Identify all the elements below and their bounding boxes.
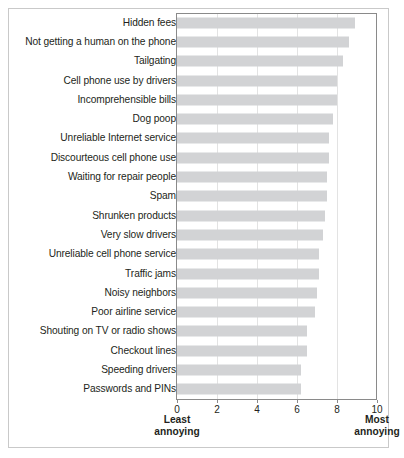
x-tick-mark bbox=[377, 400, 378, 403]
bar-category-label: Unreliable Internet service bbox=[60, 133, 176, 143]
bar-category-label: Traffic jams bbox=[125, 268, 176, 278]
chart-card: Hidden feesNot getting a human on the ph… bbox=[8, 8, 389, 448]
bar-category-label: Shouting on TV or radio shows bbox=[40, 326, 176, 336]
bar-row: Dog poop bbox=[9, 109, 390, 128]
axis-caption-least-line1: Least bbox=[137, 414, 217, 426]
bar-row: Discourteous cell phone use bbox=[9, 148, 390, 167]
bar-category-label: Poor airline service bbox=[91, 307, 176, 317]
bar bbox=[177, 268, 319, 279]
bar-category-label: Shrunken products bbox=[92, 211, 176, 221]
bar-category-label: Spam bbox=[150, 191, 176, 201]
bar bbox=[177, 56, 343, 67]
bar-row: Very slow drivers bbox=[9, 225, 390, 244]
x-axis: 0246810 bbox=[177, 400, 377, 401]
bar-category-label: Tailgating bbox=[134, 56, 176, 66]
bar-row: Shouting on TV or radio shows bbox=[9, 322, 390, 341]
bar-row: Incomprehensible bills bbox=[9, 90, 390, 109]
bar bbox=[177, 249, 319, 260]
bar-category-label: Very slow drivers bbox=[101, 230, 176, 240]
bar-category-label: Speeding drivers bbox=[101, 365, 176, 375]
bar-row: Tailgating bbox=[9, 52, 390, 71]
bar-row: Not getting a human on the phone bbox=[9, 32, 390, 51]
axis-caption-most-line2: annoying bbox=[337, 426, 404, 438]
x-tick-mark bbox=[337, 400, 338, 403]
bar bbox=[177, 17, 355, 28]
axis-caption-most: Most annoying bbox=[337, 414, 404, 437]
chart-plot-area: Hidden feesNot getting a human on the ph… bbox=[9, 9, 390, 449]
axis-caption-most-line1: Most bbox=[337, 414, 404, 426]
bar-row: Hidden fees bbox=[9, 13, 390, 32]
x-tick-label: 6 bbox=[294, 405, 300, 415]
bar-track bbox=[177, 341, 377, 360]
bar-track bbox=[177, 187, 377, 206]
bar-category-label: Noisy neighbors bbox=[104, 288, 176, 298]
bar-category-label: Cell phone use by drivers bbox=[64, 75, 176, 85]
bar-track bbox=[177, 148, 377, 167]
bar bbox=[177, 384, 301, 395]
bar-row: Poor airline service bbox=[9, 302, 390, 321]
bar-row: Checkout lines bbox=[9, 341, 390, 360]
bar bbox=[177, 191, 327, 202]
bar-track bbox=[177, 109, 377, 128]
bar-track bbox=[177, 71, 377, 90]
x-tick-mark bbox=[257, 400, 258, 403]
bar bbox=[177, 75, 337, 86]
bar-row: Shrunken products bbox=[9, 206, 390, 225]
bar-track bbox=[177, 32, 377, 51]
x-tick-label: 4 bbox=[254, 405, 260, 415]
bar bbox=[177, 345, 307, 356]
axis-caption-least-line2: annoying bbox=[137, 426, 217, 438]
bar-category-label: Waiting for repair people bbox=[68, 172, 176, 182]
bar bbox=[177, 152, 329, 163]
x-tick-mark bbox=[177, 400, 178, 403]
axis-caption-least: Least annoying bbox=[137, 414, 217, 437]
bar-category-label: Checkout lines bbox=[111, 346, 176, 356]
bar-track bbox=[177, 322, 377, 341]
bar-track bbox=[177, 52, 377, 71]
bar-track bbox=[177, 302, 377, 321]
bar-category-label: Discourteous cell phone use bbox=[51, 153, 176, 163]
bar bbox=[177, 94, 337, 105]
bar-track bbox=[177, 283, 377, 302]
bar bbox=[177, 172, 327, 183]
bar-track bbox=[177, 360, 377, 379]
bar bbox=[177, 210, 325, 221]
bar-track bbox=[177, 206, 377, 225]
bar-row: Traffic jams bbox=[9, 264, 390, 283]
bar-track bbox=[177, 167, 377, 186]
bar-category-label: Incomprehensible bills bbox=[77, 95, 176, 105]
bar bbox=[177, 307, 315, 318]
bar-category-label: Unreliable cell phone service bbox=[49, 249, 176, 259]
bar-row: Unreliable Internet service bbox=[9, 129, 390, 148]
bar-row: Unreliable cell phone service bbox=[9, 245, 390, 264]
bar bbox=[177, 229, 323, 240]
bar-rows: Hidden feesNot getting a human on the ph… bbox=[9, 13, 390, 399]
bar bbox=[177, 287, 317, 298]
bar-track bbox=[177, 264, 377, 283]
bar bbox=[177, 326, 307, 337]
bar-row: Cell phone use by drivers bbox=[9, 71, 390, 90]
bar bbox=[177, 114, 333, 125]
bar-row: Spam bbox=[9, 187, 390, 206]
bar-category-label: Not getting a human on the phone bbox=[25, 37, 176, 47]
bar-category-label: Hidden fees bbox=[123, 18, 176, 28]
bar-track bbox=[177, 245, 377, 264]
bar-track bbox=[177, 90, 377, 109]
bar bbox=[177, 364, 301, 375]
bar-category-label: Passwords and PINs bbox=[83, 384, 176, 394]
bar-row: Speeding drivers bbox=[9, 360, 390, 379]
bar-track bbox=[177, 225, 377, 244]
bar-row: Noisy neighbors bbox=[9, 283, 390, 302]
bar bbox=[177, 36, 349, 47]
bar-track bbox=[177, 13, 377, 32]
x-tick-mark bbox=[217, 400, 218, 403]
bar-track bbox=[177, 380, 377, 399]
x-tick-mark bbox=[297, 400, 298, 403]
bar-row: Passwords and PINs bbox=[9, 380, 390, 399]
bar-row: Waiting for repair people bbox=[9, 167, 390, 186]
bar bbox=[177, 133, 329, 144]
bar-track bbox=[177, 129, 377, 148]
bar-category-label: Dog poop bbox=[133, 114, 176, 124]
